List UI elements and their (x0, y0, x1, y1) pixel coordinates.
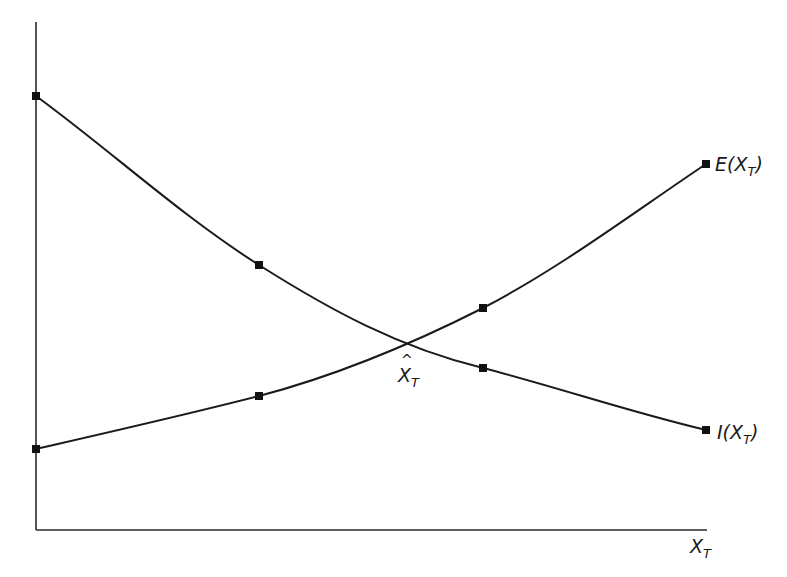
chart: E(XT) I(XT) ^ XT XT (0, 0, 787, 577)
marker (255, 392, 263, 400)
i-curve (36, 96, 706, 430)
marker (702, 426, 710, 434)
i-curve-markers (32, 92, 710, 434)
e-curve-markers (32, 160, 710, 453)
intersection-label: XT (397, 364, 420, 390)
marker (479, 364, 487, 372)
e-curve (36, 164, 706, 449)
marker (32, 445, 40, 453)
marker (702, 160, 710, 168)
i-curve-label: I(XT) (717, 421, 758, 447)
marker (255, 261, 263, 269)
x-axis-label: XT (689, 535, 712, 561)
marker (32, 92, 40, 100)
e-curve-label: E(XT) (715, 153, 763, 179)
marker (479, 304, 487, 312)
